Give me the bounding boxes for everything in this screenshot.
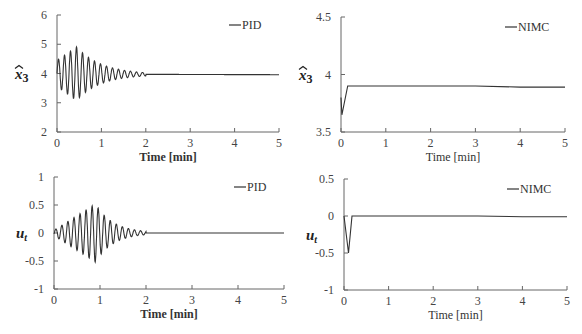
legend-label: PID	[242, 18, 262, 32]
x-tick-label: 3	[475, 294, 481, 308]
x-axis-label: Time [min]	[428, 308, 483, 322]
x-tick-label: 2	[430, 294, 436, 308]
chart-bl: 012345-1-0.500.51Time [min]utPID	[16, 170, 287, 321]
series-line-nimc	[341, 86, 565, 115]
x-tick-label: 1	[383, 136, 389, 150]
chart-tl: 01234523456Time [min]x3PID	[14, 8, 282, 164]
y-tick-label: 3	[41, 96, 47, 110]
y-tick-label: -0.5	[315, 246, 334, 260]
y-tick-label: -0.5	[25, 254, 44, 268]
series-line-pid	[54, 206, 284, 262]
y-tick-label: 2	[41, 125, 47, 139]
y-tick-label: 0.5	[319, 172, 334, 186]
series-line-nimc	[344, 216, 567, 253]
x-tick-label: 0	[54, 136, 60, 150]
y-tick-label: 1	[38, 170, 44, 184]
y-axis-label: ut	[16, 225, 28, 243]
x-tick-label: 2	[428, 136, 434, 150]
y-tick-label: 4	[325, 68, 331, 82]
x-tick-label: 2	[143, 293, 149, 307]
y-tick-label: 4	[41, 67, 47, 81]
x-tick-label: 3	[189, 293, 195, 307]
y-axis-label: ut	[306, 227, 318, 245]
legend-label: PID	[247, 180, 267, 194]
x-tick-label: 0	[341, 294, 347, 308]
x-tick-label: 1	[98, 136, 104, 150]
y-tick-label: 3.5	[316, 125, 331, 139]
x-tick-label: 5	[562, 136, 568, 150]
y-tick-label: 6	[41, 8, 47, 22]
x-tick-label: 4	[519, 294, 525, 308]
legend-label: NIMC	[518, 20, 549, 34]
legend-label: NIMC	[520, 182, 551, 196]
y-tick-label: 0	[328, 209, 334, 223]
x-tick-label: 0	[338, 136, 344, 150]
y-tick-label: 5	[41, 37, 47, 51]
x-axis-label: Time [min]	[426, 150, 481, 164]
series-line-pid	[57, 47, 279, 98]
y-tick-label: 4.5	[316, 10, 331, 24]
x-tick-label: 0	[51, 293, 57, 307]
x-tick-label: 2	[143, 136, 149, 150]
x-tick-label: 4	[517, 136, 523, 150]
y-tick-label: -1	[324, 283, 334, 297]
x-axis-label: Time [min]	[139, 150, 196, 164]
x-tick-label: 5	[281, 293, 287, 307]
x-tick-label: 3	[472, 136, 478, 150]
figure-canvas: 01234523456Time [min]x3PID0123453.544.5T…	[0, 0, 582, 334]
y-tick-label: -1	[34, 282, 44, 296]
x-tick-label: 5	[276, 136, 282, 150]
y-tick-label: 0.5	[29, 198, 44, 212]
x-tick-label: 1	[386, 294, 392, 308]
x-tick-label: 3	[187, 136, 193, 150]
y-tick-label: 0	[38, 226, 44, 240]
x-tick-label: 4	[235, 293, 241, 307]
x-tick-label: 4	[232, 136, 238, 150]
x-tick-label: 1	[97, 293, 103, 307]
x-tick-label: 5	[564, 294, 570, 308]
chart-tr: 0123453.544.5Time [min]x3NIMC	[298, 10, 568, 164]
chart-br: 012345-1-0.500.5Time [min]utNIMC	[306, 172, 570, 322]
x-axis-label: Time [min]	[140, 307, 197, 321]
